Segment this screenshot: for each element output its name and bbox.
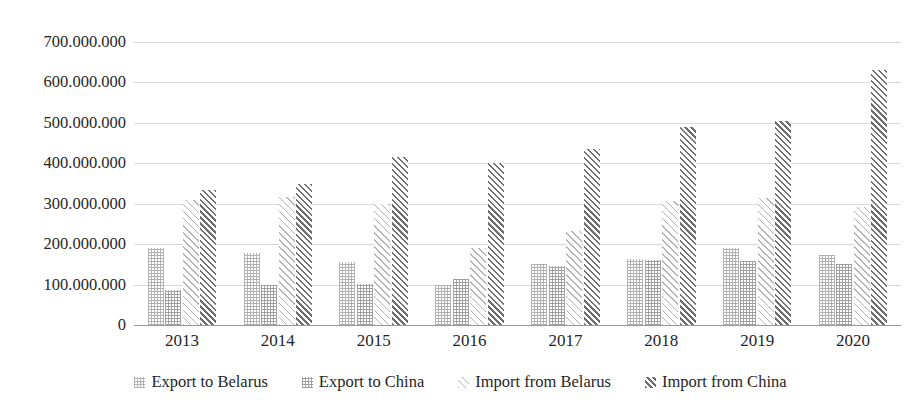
bar	[566, 231, 582, 325]
x-tick-label: 2016	[453, 332, 487, 349]
plot-area	[134, 42, 901, 325]
legend-swatch-icon	[645, 377, 656, 388]
bar	[279, 197, 295, 325]
y-tick-label: 0	[118, 317, 126, 334]
x-tick-label: 2020	[836, 332, 870, 349]
legend-swatch-icon	[302, 377, 313, 388]
bar-chart: 0100.000.000200.000.000300.000.000400.00…	[0, 0, 921, 413]
legend-item[interactable]: Export to Belarus	[134, 374, 267, 391]
bar-group-2018	[627, 42, 696, 325]
x-tick-label: 2013	[165, 332, 199, 349]
x-tick-label: 2015	[357, 332, 391, 349]
bar	[148, 248, 164, 325]
y-tick-label: 600.000.000	[44, 74, 127, 91]
legend-item[interactable]: Import from Belarus	[458, 374, 611, 391]
bar-group-2014	[244, 42, 313, 325]
x-tick-label: 2017	[548, 332, 582, 349]
bar	[374, 204, 390, 325]
bar	[871, 70, 887, 325]
x-tick-label: 2018	[644, 332, 678, 349]
bar-group-2015	[339, 42, 408, 325]
bar	[627, 259, 643, 325]
bar	[584, 149, 600, 325]
bar-group-2016	[435, 42, 504, 325]
legend-label: Export to Belarus	[151, 374, 267, 391]
bar-group-2013	[148, 42, 217, 325]
y-tick-label: 400.000.000	[44, 155, 127, 172]
legend-label: Export to China	[319, 374, 424, 391]
legend-swatch-icon	[458, 377, 469, 388]
bar	[836, 264, 852, 325]
bar	[680, 127, 696, 325]
y-tick-label: 500.000.000	[44, 115, 127, 132]
bar	[392, 157, 408, 325]
x-tick-label: 2019	[740, 332, 774, 349]
bar-group-2020	[819, 42, 888, 325]
bar	[357, 284, 373, 325]
bar-group-2019	[723, 42, 792, 325]
bar	[453, 279, 469, 325]
bar	[435, 285, 451, 325]
y-axis-labels: 0100.000.000200.000.000300.000.000400.00…	[0, 42, 126, 325]
y-tick-label: 700.000.000	[44, 34, 127, 51]
y-tick-label: 300.000.000	[44, 195, 127, 212]
bar	[296, 184, 312, 326]
legend-swatch-icon	[134, 377, 145, 388]
axis-baseline	[134, 325, 901, 326]
legend-label: Import from Belarus	[475, 374, 611, 391]
bar	[819, 255, 835, 325]
y-tick-label: 200.000.000	[44, 236, 127, 253]
legend-item[interactable]: Import from China	[645, 374, 787, 391]
bar	[645, 260, 661, 325]
bar	[723, 248, 739, 325]
bar	[200, 190, 216, 325]
chart-legend: Export to BelarusExport to ChinaImport f…	[0, 374, 921, 391]
bar	[740, 261, 756, 325]
bar	[662, 201, 678, 325]
bar	[758, 198, 774, 325]
bar	[339, 262, 355, 325]
legend-label: Import from China	[662, 374, 787, 391]
bar	[854, 207, 870, 325]
bar	[244, 253, 260, 325]
x-tick-label: 2014	[261, 332, 295, 349]
bar	[165, 290, 181, 325]
x-axis-labels: 20132014201520162017201820192020	[134, 332, 901, 360]
bar	[549, 266, 565, 325]
bar	[183, 200, 199, 325]
bar	[488, 163, 504, 325]
bar	[261, 285, 277, 325]
bar	[775, 121, 791, 325]
bar	[531, 264, 547, 325]
bar	[470, 248, 486, 325]
bar-group-2017	[531, 42, 600, 325]
legend-item[interactable]: Export to China	[302, 374, 424, 391]
y-tick-label: 100.000.000	[44, 276, 127, 293]
